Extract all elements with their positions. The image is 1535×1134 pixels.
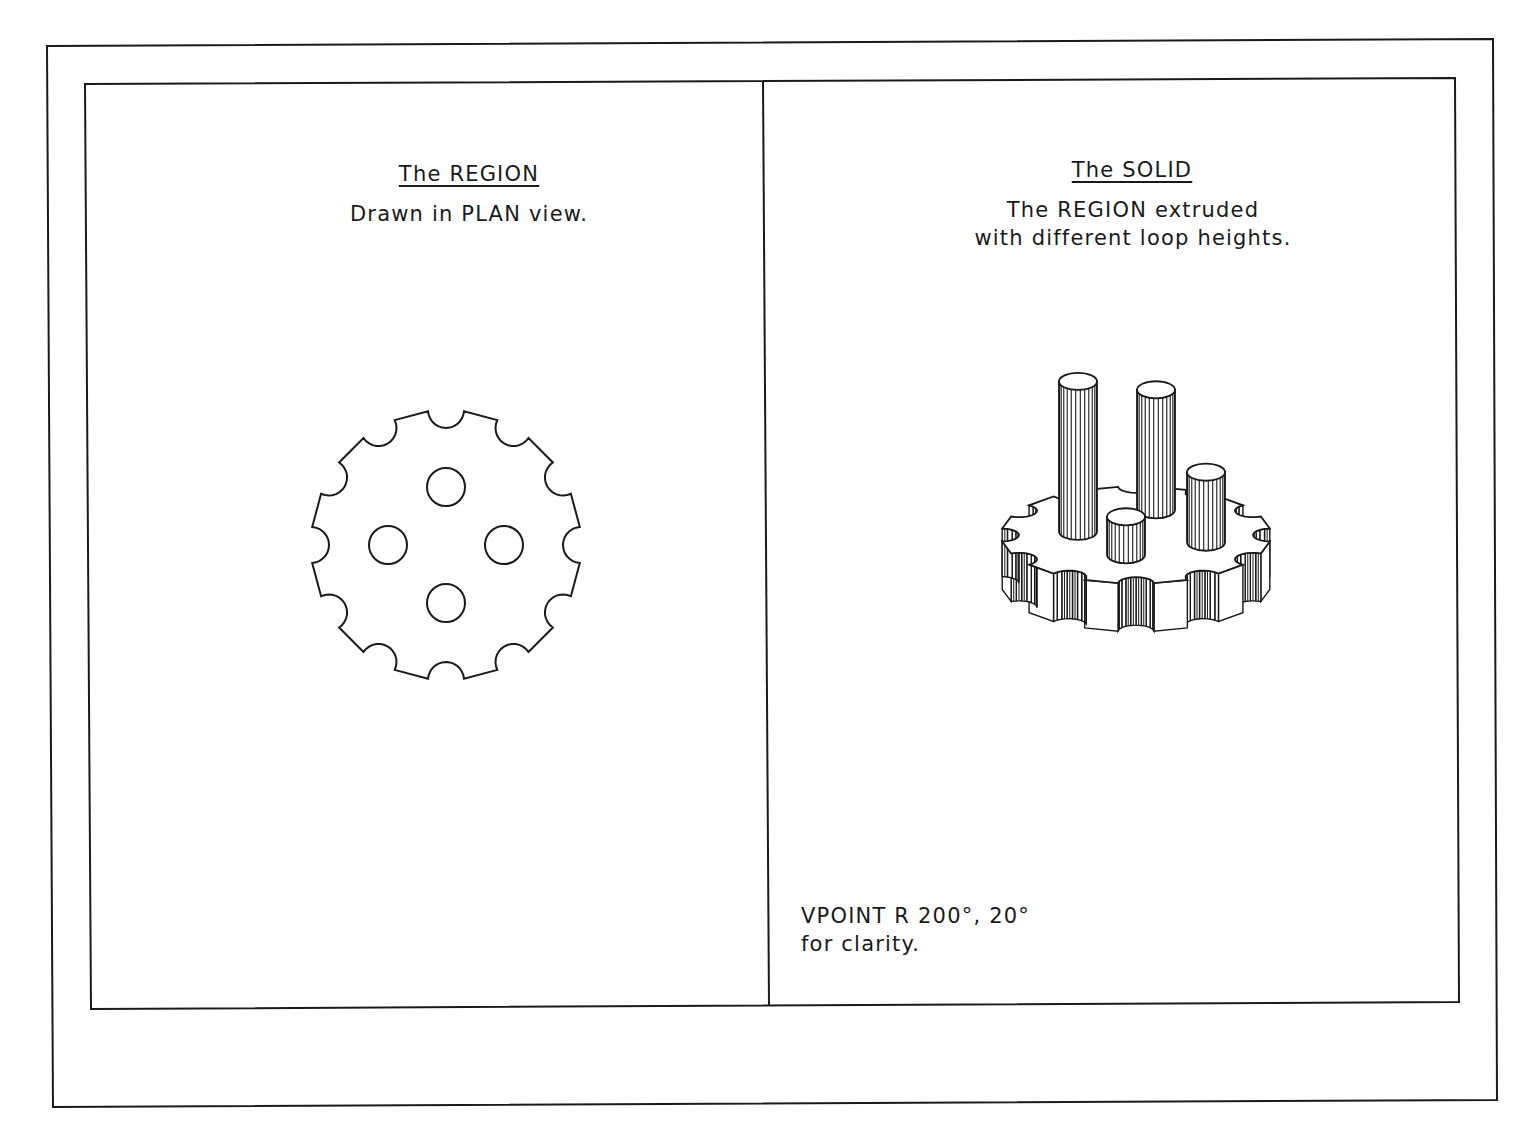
left-panel-title: The REGION [399, 164, 539, 185]
hole-circle [485, 526, 523, 564]
base-side-face [1154, 580, 1187, 631]
hole-circle [427, 584, 465, 622]
right-panel-title: The SOLID [1072, 160, 1192, 181]
extruded-gear-solid [1002, 373, 1270, 631]
hole-circle [427, 468, 465, 506]
right-panel-subtitle-line1: The REGION extruded [1007, 200, 1260, 221]
hole-circle [369, 526, 407, 564]
cylinder-short [1187, 464, 1225, 551]
left-panel-subtitle: Drawn in PLAN view. [350, 204, 588, 225]
plan-view-gear-region [312, 411, 580, 679]
vpoint-note-line2: for clarity. [801, 934, 920, 955]
base-side-face [1085, 580, 1118, 631]
gear-outline [312, 411, 580, 679]
cylinder-medium [1137, 381, 1175, 518]
cylinder-shortest [1107, 508, 1145, 563]
base-side-face [1218, 565, 1242, 622]
drawing-sheet [0, 0, 1535, 1134]
right-panel-subtitle-line2: with different loop heights. [974, 228, 1291, 249]
outer-border [47, 39, 1497, 1107]
vpoint-note-line1: VPOINT R 200°, 20° [801, 906, 1030, 927]
cylinder-tall [1059, 373, 1097, 540]
panel-divider [763, 81, 769, 1006]
